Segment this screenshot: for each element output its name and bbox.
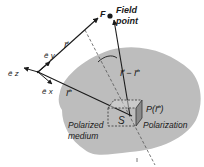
unit-z-label: ê z — [8, 69, 19, 78]
unit-x-label: ê x — [42, 87, 54, 96]
polarized-medium-label-line2: medium — [68, 131, 98, 141]
diagram-canvas: F Field point r⃗ r⃗ − r⃗' r⃗' ê z ê y ê … — [0, 0, 204, 167]
polarized-medium-label-line1: Polarized — [68, 120, 104, 130]
r-minus-r-prime-label: r⃗ − r⃗' — [120, 68, 140, 78]
field-point-label-line2: point — [115, 16, 139, 26]
unit-z-arrow — [24, 68, 38, 72]
field-point-letter: F — [100, 9, 106, 19]
volume-element-label: S — [118, 115, 125, 126]
field-point-marker — [107, 13, 112, 18]
unit-y-label: ê y — [44, 51, 56, 60]
field-point-label-line1: Field — [116, 5, 138, 15]
unit-y-arrow — [38, 62, 50, 72]
r-prime-vector-label: r⃗' — [66, 88, 72, 98]
polarization-vector-label: P(r⃗') — [146, 104, 163, 114]
polarization-label: Polarization — [143, 120, 188, 130]
